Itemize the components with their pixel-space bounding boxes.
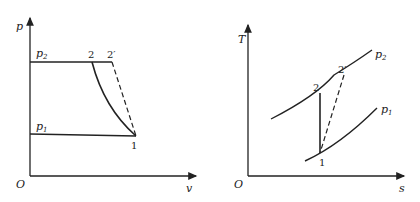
ts-origin: O: [234, 178, 243, 191]
pv-x-label: v: [186, 182, 193, 195]
pv-diagram: p v O p2 p1 2 2′ 1: [16, 18, 196, 195]
pv-point-2: 2: [88, 49, 94, 60]
ts-p1-label: p1: [381, 103, 393, 117]
pv-y-label: p: [16, 20, 23, 33]
pv-isobar-p1: [30, 134, 136, 136]
diagram-canvas: p v O p2 p1 2 2′ 1 T s O p2 p1 2 2′ 1: [0, 0, 420, 202]
ts-actual-dashed: [320, 75, 344, 153]
pv-isentropic-curve: [92, 62, 136, 136]
pv-p2-label: p2: [36, 47, 48, 61]
ts-isobar-p2: [271, 50, 372, 119]
ts-x-label: s: [399, 182, 405, 195]
ts-point-2prime: 2′: [338, 64, 347, 75]
pv-point-1: 1: [131, 140, 137, 151]
ts-diagram: T s O p2 p1 2 2′ 1: [234, 25, 405, 195]
pv-origin: O: [16, 178, 25, 191]
pv-point-2prime: 2′: [107, 49, 116, 60]
ts-p2-label: p2: [375, 48, 387, 62]
ts-point-1: 1: [319, 157, 325, 168]
ts-y-label: T: [238, 33, 247, 46]
pv-p1-label: p1: [36, 120, 48, 134]
ts-isobar-p1: [305, 108, 377, 161]
ts-point-2: 2: [313, 82, 319, 93]
